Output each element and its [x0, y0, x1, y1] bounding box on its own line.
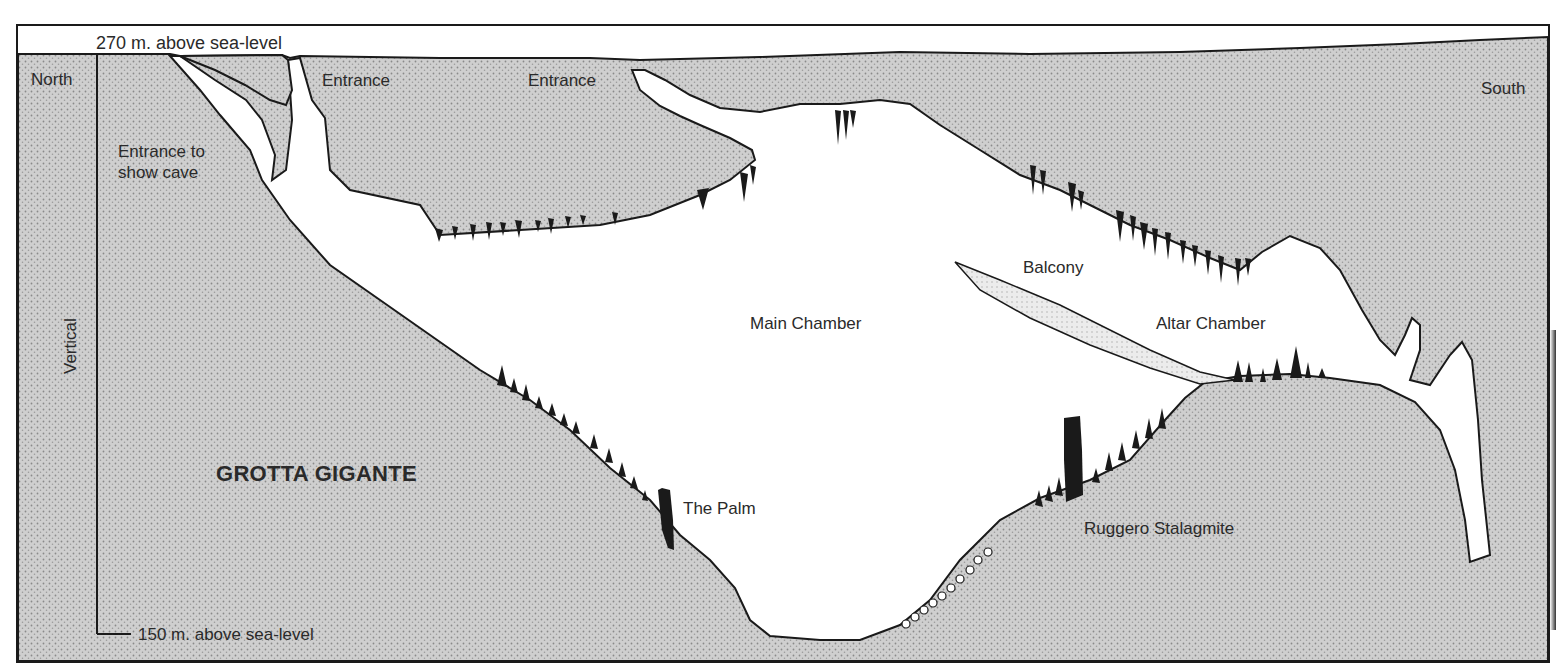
south-label: South [1481, 80, 1525, 97]
north-label: North [31, 71, 73, 88]
altar-chamber-label: Altar Chamber [1156, 315, 1266, 332]
ruggero-stalagmite-label: Ruggero Stalagmite [1084, 520, 1234, 537]
entrance-show-cave-label-line2: show cave [118, 164, 198, 181]
main-chamber-label: Main Chamber [750, 315, 862, 332]
scale-bottom-label: 150 m. above sea-level [138, 626, 314, 643]
entrance-show-cave-label-line1: Entrance to [118, 143, 205, 160]
ruggero-stalagmite-column [1064, 416, 1083, 502]
the-palm-label: The Palm [683, 500, 756, 517]
entrance-label-2: Entrance [528, 72, 596, 89]
cave-cross-section-diagram [0, 0, 1556, 667]
page-edge-shadow [1550, 330, 1556, 630]
diagram-title: GROTTA GIGANTE [216, 463, 417, 485]
vertical-axis-label: Vertical [62, 318, 79, 374]
balcony-label: Balcony [1023, 259, 1083, 276]
scale-top-label: 270 m. above sea-level [96, 34, 282, 52]
entrance-label-1: Entrance [322, 72, 390, 89]
